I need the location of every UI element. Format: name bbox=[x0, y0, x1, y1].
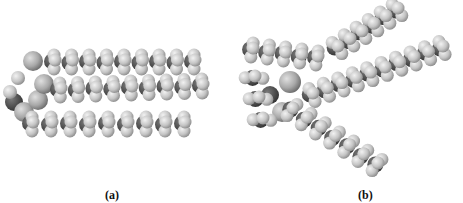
molecule-model-a bbox=[0, 0, 230, 203]
panel-label-a: (a) bbox=[105, 188, 119, 203]
panel-label-b: (b) bbox=[358, 188, 373, 203]
panel-a: (a) bbox=[0, 0, 230, 203]
panel-b: (b) bbox=[230, 0, 463, 203]
molecule-model-b bbox=[230, 0, 463, 203]
